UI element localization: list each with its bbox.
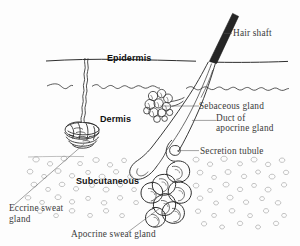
callout-label-duct-of-apocrine-gland-line1: Duct of — [216, 113, 245, 124]
callout-label-duct-of-apocrine-gland-line2: apocrine gland — [216, 123, 274, 134]
leader-eccrine-sweat-gland — [14, 144, 84, 205]
layer-label-epidermis: Epidermis — [107, 53, 151, 63]
callout-label-hair-shaft: Hair shaft — [233, 28, 272, 39]
skin-anatomy-diagram: Epidermis Dermis Subcutaneous Hair shaft… — [0, 0, 300, 246]
subcutaneous-fat-cells — [25, 156, 288, 229]
callout-label-secretion-tubule: Secretion tubule — [200, 146, 264, 157]
callout-label-eccrine-sweat-gland-line2: gland — [9, 214, 31, 225]
eccrine-sweat-gland-structure — [65, 58, 100, 148]
callout-label-eccrine-sweat-gland-line1: Eccrine sweat — [9, 203, 63, 214]
callout-label-sebaceous-gland: Sebaceous gland — [199, 101, 264, 112]
callout-label-apocrine-sweat-gland: Apocrine sweat gland — [71, 229, 156, 240]
apocrine-sweat-gland-structure — [141, 140, 191, 227]
layer-label-dermis: Dermis — [100, 114, 131, 124]
skin-surface-line — [46, 59, 288, 62]
layer-label-subcutaneous: Subcutaneous — [76, 176, 139, 186]
